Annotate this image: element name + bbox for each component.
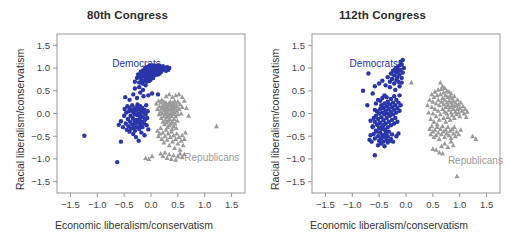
data-point <box>438 80 443 85</box>
data-point <box>115 160 119 164</box>
data-point <box>380 79 384 83</box>
x-tick-label: −1.0 <box>88 199 107 210</box>
data-point <box>137 85 141 89</box>
data-point <box>368 119 372 123</box>
y-tick-label: −1.5 <box>286 176 305 187</box>
data-point <box>383 129 387 133</box>
data-point <box>123 95 127 99</box>
x-tick-label: −1.5 <box>61 199 80 210</box>
x-tick-label: −1.0 <box>343 199 362 210</box>
series-annotation-democrats: Democrats <box>112 58 160 69</box>
data-point <box>388 85 392 89</box>
data-point <box>455 174 460 179</box>
data-point <box>400 76 404 80</box>
data-point <box>141 88 145 92</box>
data-point <box>167 92 172 97</box>
data-point <box>370 91 374 95</box>
data-point <box>470 134 475 139</box>
y-tick-label: 0.5 <box>37 85 50 96</box>
data-point <box>186 113 191 118</box>
data-point <box>397 109 401 113</box>
x-tick-label: −0.5 <box>370 199 389 210</box>
data-point <box>442 141 447 146</box>
data-point <box>127 98 131 102</box>
data-point <box>377 121 381 125</box>
data-point <box>436 97 441 102</box>
x-tick-label: −0.5 <box>115 199 134 210</box>
x-tick-label: 0.0 <box>144 199 157 210</box>
x-tick-label: 0.5 <box>171 199 184 210</box>
series-annotation-democrats: Democrats <box>350 58 398 69</box>
data-point <box>382 144 386 148</box>
data-point <box>400 80 404 84</box>
data-point <box>142 133 146 137</box>
data-point <box>384 95 388 99</box>
data-point <box>214 124 219 129</box>
data-point <box>370 124 374 128</box>
data-point <box>402 66 406 70</box>
y-tick-label: −1.0 <box>286 153 305 164</box>
data-point <box>430 111 435 116</box>
data-point <box>121 125 125 129</box>
data-point <box>119 139 123 143</box>
data-point <box>401 58 405 62</box>
series-annotation-republicans: Republicans <box>448 155 503 166</box>
data-point <box>398 103 402 107</box>
data-point <box>184 105 189 110</box>
data-point <box>386 140 390 144</box>
data-point <box>395 119 399 123</box>
x-axis-label: Economic liberalism/conservatism <box>279 219 499 231</box>
data-point <box>150 91 154 95</box>
y-tick-label: −1.5 <box>31 176 50 187</box>
panel-112th-congress: 112th Congress −1.5−1.0−0.50.00.51.01.5−… <box>255 0 510 241</box>
y-tick-label: 0.0 <box>37 108 50 119</box>
x-tick-label: 1.0 <box>198 199 211 210</box>
data-point <box>391 139 395 143</box>
y-tick-label: 0.5 <box>292 85 305 96</box>
plot-canvas-80th: −1.5−1.0−0.50.00.51.01.5−1.5−1.0−0.50.00… <box>0 0 255 241</box>
data-point <box>171 153 176 158</box>
data-point <box>386 75 390 79</box>
y-axis-label: Racial liberalism/conservatism <box>269 49 281 190</box>
data-point <box>426 110 431 115</box>
plot-frame <box>312 34 500 193</box>
data-point <box>145 116 149 120</box>
data-point <box>136 139 140 143</box>
x-tick-label: −1.5 <box>316 199 335 210</box>
y-tick-label: 1.0 <box>37 62 50 73</box>
series-annotation-republicans: Republicans <box>184 152 239 163</box>
x-tick-label: 1.5 <box>480 199 493 210</box>
data-point <box>174 131 179 136</box>
data-point <box>373 153 377 157</box>
data-point <box>167 66 171 70</box>
data-point <box>440 124 445 129</box>
data-point <box>150 154 155 159</box>
data-point <box>141 94 145 98</box>
y-tick-label: 1.0 <box>292 62 305 73</box>
data-point <box>397 93 401 97</box>
data-point <box>82 134 86 138</box>
x-tick-label: 1.5 <box>225 199 238 210</box>
y-tick-label: 1.5 <box>292 40 305 51</box>
data-point <box>393 88 397 92</box>
data-point <box>425 103 430 108</box>
data-point <box>183 130 188 135</box>
x-tick-label: 1.0 <box>453 199 466 210</box>
y-tick-label: 0.0 <box>292 108 305 119</box>
data-point <box>181 143 186 148</box>
data-point <box>452 125 457 130</box>
data-point <box>144 103 148 107</box>
x-axis-label: Economic liberalism/conservatism <box>24 219 244 231</box>
series-democrats <box>361 58 406 158</box>
plot-canvas-112th: −1.5−1.0−0.50.00.51.01.5−1.5−1.0−0.50.00… <box>255 0 510 241</box>
data-point <box>373 108 377 112</box>
panel-80th-congress: 80th Congress −1.5−1.0−0.50.00.51.01.5−1… <box>0 0 255 241</box>
data-point <box>373 84 377 88</box>
data-point <box>428 116 433 121</box>
data-point <box>401 70 405 74</box>
data-point <box>381 123 385 127</box>
data-point <box>369 139 373 143</box>
data-point <box>135 96 139 100</box>
data-point <box>429 105 434 110</box>
data-point <box>119 119 123 123</box>
